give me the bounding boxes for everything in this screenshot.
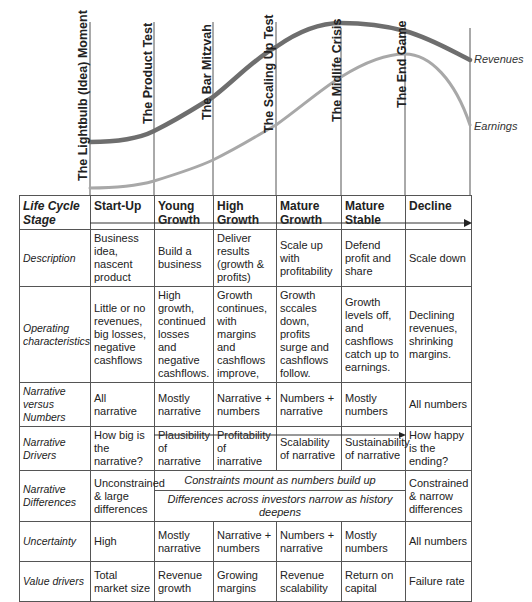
cell: Mostly narrative: [155, 383, 214, 427]
cell: Defend profit and share: [342, 230, 406, 287]
cell: High: [91, 522, 155, 562]
cell: Growth continues, with margins and cashf…: [214, 287, 277, 383]
row-uncertainty: Uncertainty High Mostly narrative Narrat…: [20, 522, 472, 562]
cell: Build a business: [155, 230, 214, 287]
cell: Growth sccales down, profits surge and c…: [277, 287, 342, 383]
milestone-label-lightbulb: The Lightbulb (Idea) Moment: [76, 10, 90, 181]
cell: Mostly numbers: [342, 383, 406, 427]
row-narrative-differences-top: Narrative Differences Unconstrained & la…: [20, 471, 472, 491]
differences-narrow-span: Differences across investors narrow as h…: [155, 491, 406, 522]
cell: How big is the narrative?: [91, 427, 155, 471]
row-description: Description Business idea, nascent produ…: [20, 230, 472, 287]
cell: Deliver results (growth & profits): [214, 230, 277, 287]
row-operating-characteristics: Operating characteristics Little or no r…: [20, 287, 472, 383]
row-label: Narrative Differences: [20, 471, 91, 522]
cell: Revenue growth: [155, 562, 214, 602]
milestone-label-bar-mitzvah: The Bar Mitzvah: [200, 24, 214, 120]
cell: How happy is the ending?: [406, 427, 472, 471]
row-label: Narrative Drivers: [20, 427, 91, 471]
cell: All narrative: [91, 383, 155, 427]
cell: Numbers + narrative: [277, 383, 342, 427]
cell: Declining revenues, shrinking margins.: [406, 287, 472, 383]
milestone-label-end-game: The End Game: [395, 20, 409, 108]
cell: Mostly narrative: [155, 522, 214, 562]
cell: Scale up with profitability: [277, 230, 342, 287]
cell: Growth levels off, and cashflows catch u…: [342, 287, 406, 383]
cell: Little or no revenues, big losses, negat…: [91, 287, 155, 383]
cell: All numbers: [406, 522, 472, 562]
milestone-label-product-test: The Product Test: [141, 23, 155, 124]
row-label: Uncertainty: [20, 522, 91, 562]
cell: Narrative + numbers: [214, 522, 277, 562]
milestone-label-midlife-crisis: The Midlife Crisis: [330, 19, 344, 123]
cell-constrained: Constrained & narrow differences: [406, 471, 472, 522]
cell: Growing margins: [214, 562, 277, 602]
cell: Total market size: [91, 562, 155, 602]
stage-arrow: [88, 219, 474, 227]
row-label: Narrative versus Numbers: [20, 383, 91, 427]
cell: Numbers + narrative: [277, 522, 342, 562]
cell: Mostly numbers: [342, 522, 406, 562]
cell: High growth, continued losses and negati…: [155, 287, 214, 383]
cell: All numbers: [406, 383, 472, 427]
cell: Scale down: [406, 230, 472, 287]
row-label: Operating characteristics: [20, 287, 91, 383]
constraints-arrow: [152, 431, 412, 439]
row-value-drivers: Value drivers Total market size Revenue …: [20, 562, 472, 602]
row-label: Description: [20, 230, 91, 287]
row-narrative-vs-numbers: Narrative versus Numbers All narrative M…: [20, 383, 472, 427]
cell: Narrative + numbers: [214, 383, 277, 427]
cell: Business idea, nascent product: [91, 230, 155, 287]
row-label: Value drivers: [20, 562, 91, 602]
cell: Revenue scalability: [277, 562, 342, 602]
constraints-mount-span: Constraints mount as numbers build up: [155, 471, 406, 491]
cell-unconstrained: Unconstrained & large differences: [91, 471, 155, 522]
revenues-label: Revenues: [474, 53, 524, 65]
milestone-label-scaling-up: The Scaling Up Test: [262, 14, 276, 133]
earnings-label: Earnings: [474, 120, 517, 132]
life-cycle-table: Life Cycle Stage Start-Up Young Growth H…: [19, 195, 472, 602]
arrowhead-icon: [464, 219, 472, 227]
cell: Failure rate: [406, 562, 472, 602]
cell: Return on capital: [342, 562, 406, 602]
header-row-label: Life Cycle Stage: [20, 196, 91, 230]
arrowhead-icon: [399, 432, 406, 438]
